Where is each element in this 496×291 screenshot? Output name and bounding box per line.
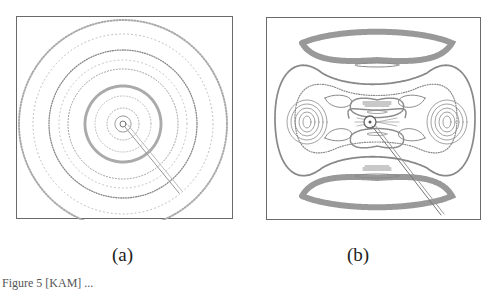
panel-b — [266, 17, 481, 220]
panel-b-label: (b) — [347, 244, 369, 266]
panel-b-plot — [267, 18, 482, 221]
panel-a — [16, 16, 233, 219]
panel-a-plot — [17, 17, 234, 220]
panel-a-label: (a) — [112, 244, 133, 266]
figure-caption: Figure 5 [KAM] ... — [2, 276, 93, 291]
